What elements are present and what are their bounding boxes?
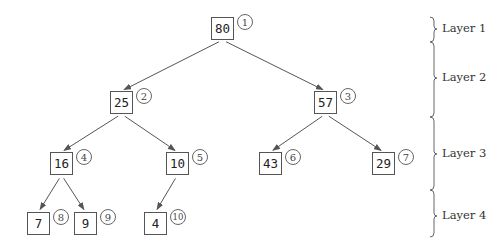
node-index-badge: 5	[192, 149, 208, 165]
layer-label: Layer 3	[442, 146, 486, 160]
heap-node: 80	[211, 17, 234, 40]
node-index-badge: 2	[136, 88, 152, 104]
heap-node: 4	[144, 212, 167, 235]
layer-label: Layer 2	[442, 70, 486, 84]
node-index-badge: 7	[398, 149, 414, 165]
heap-node: 10	[166, 152, 189, 175]
layer-brace	[430, 190, 437, 237]
node-index-badge: 10	[170, 209, 186, 225]
node-index-badge: 6	[285, 149, 301, 165]
node-index-badge: 9	[100, 209, 116, 225]
layer-label: Layer 4	[442, 208, 486, 222]
heap-node: 25	[110, 91, 133, 114]
heap-node: 7	[27, 212, 50, 235]
layer-brace	[430, 117, 437, 190]
heap-tree-diagram: 8012525731641054362977899410Layer 1Layer…	[0, 0, 504, 250]
layer-label: Layer 1	[442, 21, 486, 35]
node-index-badge: 3	[340, 88, 356, 104]
heap-node: 16	[50, 152, 73, 175]
heap-node: 57	[314, 91, 337, 114]
layer-brace	[430, 17, 437, 42]
node-index-badge: 4	[76, 149, 92, 165]
node-index-badge: 8	[53, 209, 69, 225]
heap-node: 9	[74, 212, 97, 235]
heap-node: 29	[372, 152, 395, 175]
heap-node: 43	[259, 152, 282, 175]
node-index-badge: 1	[237, 14, 253, 30]
layer-brace	[430, 42, 437, 117]
